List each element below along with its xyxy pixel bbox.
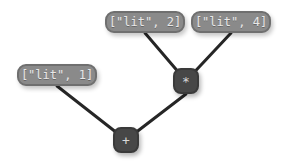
operator-node-multiply[interactable]: *: [173, 68, 199, 94]
multiply-icon: *: [182, 74, 190, 87]
literal-node-lit1[interactable]: ["lit", 1]: [17, 64, 97, 86]
literal-node-lit4[interactable]: ["lit", 4]: [191, 11, 271, 33]
literal-node-lit2[interactable]: ["lit", 2]: [105, 11, 185, 33]
plus-icon: +: [122, 133, 130, 146]
literal-node-label: ["lit", 4]: [195, 16, 267, 28]
operator-node-add[interactable]: +: [113, 127, 139, 153]
literal-node-label: ["lit", 2]: [109, 16, 181, 28]
graph-canvas: ["lit", 2] ["lit", 4] ["lit", 1] * +: [0, 0, 298, 165]
literal-node-label: ["lit", 1]: [21, 69, 93, 81]
